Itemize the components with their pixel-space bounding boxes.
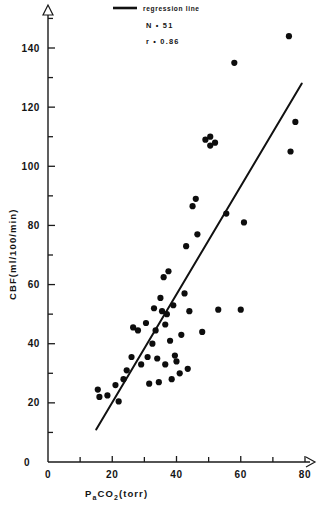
legend-regression-label: regression line: [143, 5, 200, 13]
data-point: [120, 376, 126, 382]
axes: [43, 5, 315, 467]
x-axis-title-p: P: [85, 488, 92, 499]
data-point: [104, 392, 110, 398]
legend: regression line N • 51 r • 0.86: [113, 5, 200, 47]
data-point: [172, 352, 178, 358]
data-point: [287, 148, 293, 154]
data-point: [162, 361, 168, 367]
data-point: [212, 140, 218, 146]
data-point: [231, 60, 237, 66]
regression-line-path: [96, 83, 302, 429]
data-point: [165, 268, 171, 274]
data-point: [154, 355, 160, 361]
y-axis-tick-label: 60: [28, 279, 40, 290]
x-axis-tick-label: 40: [170, 469, 182, 480]
x-axis-title: PaCO2(torr): [85, 488, 148, 501]
x-axis-tick-label: 0: [45, 469, 51, 480]
data-point: [157, 295, 163, 301]
data-point: [181, 290, 187, 296]
data-point: [207, 134, 213, 140]
x-axis-tick-label: 80: [299, 469, 311, 480]
data-point: [194, 231, 200, 237]
y-axis-arrow-icon: [43, 5, 53, 15]
data-point: [151, 305, 157, 311]
data-point: [173, 358, 179, 364]
plot-canvas: regression line N • 51 r • 0.86 20406080…: [0, 0, 323, 509]
y-axis-title-cbf: CBF: [7, 277, 18, 300]
data-point: [199, 329, 205, 335]
data-point: [215, 307, 221, 313]
regression-line: [96, 83, 302, 429]
data-point: [124, 367, 130, 373]
x-axis-tick-label: 60: [235, 469, 247, 480]
data-point: [292, 119, 298, 125]
data-point: [162, 321, 168, 327]
annotation-n: N • 51: [146, 21, 173, 30]
data-point: [164, 311, 170, 317]
data-point: [144, 354, 150, 360]
y-axis-ticks: 20406080100120140: [22, 18, 56, 432]
y-axis-tick-label: 140: [22, 43, 41, 54]
data-point: [96, 394, 102, 400]
y-axis-origin-label: 0: [24, 457, 30, 468]
data-point: [95, 386, 101, 392]
data-point: [143, 320, 149, 326]
data-point: [135, 327, 141, 333]
x-axis-title-text: PaCO2(torr): [85, 488, 148, 501]
data-point: [170, 302, 176, 308]
x-axis-title-units: (torr): [119, 488, 148, 499]
data-point: [156, 379, 162, 385]
data-point-series: [95, 33, 299, 404]
data-point: [223, 211, 229, 217]
data-point: [238, 307, 244, 313]
data-point: [161, 274, 167, 280]
data-point: [186, 308, 192, 314]
data-point: [189, 203, 195, 209]
data-point: [116, 398, 122, 404]
annotation-r: r • 0.86: [146, 37, 180, 46]
data-point: [177, 370, 183, 376]
data-point: [193, 196, 199, 202]
data-point: [146, 381, 152, 387]
scatter-plot-figure: regression line N • 51 r • 0.86 20406080…: [0, 0, 323, 509]
y-axis-tick-label: 40: [28, 338, 40, 349]
data-point: [112, 382, 118, 388]
data-point: [153, 327, 159, 333]
y-axis-tick-label: 20: [28, 397, 40, 408]
data-point: [128, 354, 134, 360]
y-axis-title-text: CBF(ml/100/min): [7, 209, 18, 300]
data-point: [241, 219, 247, 225]
x-axis-tick-label: 20: [106, 469, 118, 480]
data-point: [185, 366, 191, 372]
x-axis-ticks: 020406080: [45, 456, 311, 480]
data-point: [169, 376, 175, 382]
y-axis-title-units: (ml/100/min): [7, 209, 18, 278]
data-point: [138, 361, 144, 367]
data-point: [167, 338, 173, 344]
x-axis-title-co: CO: [97, 488, 113, 499]
y-axis-tick-label: 80: [28, 220, 40, 231]
y-axis-tick-label: 100: [22, 161, 41, 172]
data-point: [183, 243, 189, 249]
y-axis-title: CBF(ml/100/min): [7, 209, 18, 300]
data-point: [149, 341, 155, 347]
data-point: [178, 332, 184, 338]
y-axis-tick-label: 120: [22, 102, 41, 113]
data-point: [286, 33, 292, 39]
